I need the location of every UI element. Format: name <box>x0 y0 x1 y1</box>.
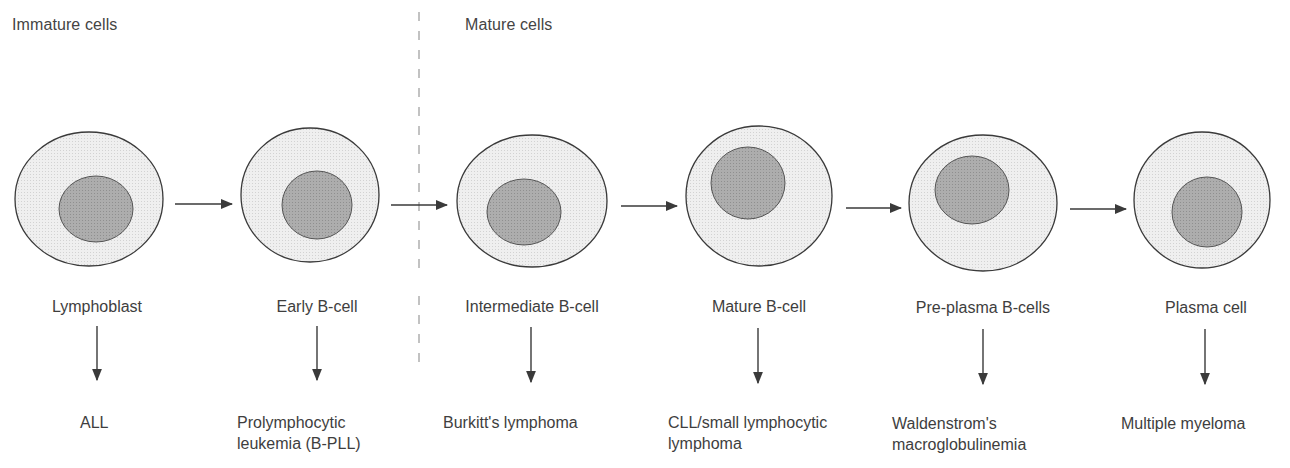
stage-label-plasma-cell: Plasma cell <box>1106 299 1290 317</box>
cell-plasma-cell <box>1134 132 1270 268</box>
stage-label-lymphoblast: Lymphoblast <box>0 298 197 316</box>
disease-label-burkitt: Burkitt's lymphoma <box>443 412 578 433</box>
cell-lymphoblast <box>15 132 163 266</box>
disease-label-cll: CLL/small lymphocytic lymphoma <box>668 412 827 454</box>
disease-label-b-pll: Prolymphocytic leukemia (B-PLL) <box>237 412 361 454</box>
stage-label-pre-plasma-b-cells: Pre-plasma B-cells <box>883 299 1083 317</box>
b-cell-differentiation-diagram <box>0 0 1290 468</box>
cell-mature-b-cell <box>686 126 832 266</box>
cell-intermediate-b-cell <box>457 135 607 267</box>
disease-label-all: ALL <box>80 412 108 433</box>
disease-label-waldenstrom: Waldenstrom's macroglobulinemia <box>892 413 1026 455</box>
stage-label-mature-b-cell: Mature B-cell <box>659 298 859 316</box>
stage-label-early-b-cell: Early B-cell <box>217 298 417 316</box>
cell-pre-plasma-b-cells <box>909 135 1057 271</box>
stage-label-intermediate-b-cell: Intermediate B-cell <box>432 298 632 316</box>
cell-early-b-cell <box>241 128 379 262</box>
disease-label-multiple-myeloma: Multiple myeloma <box>1121 413 1245 434</box>
